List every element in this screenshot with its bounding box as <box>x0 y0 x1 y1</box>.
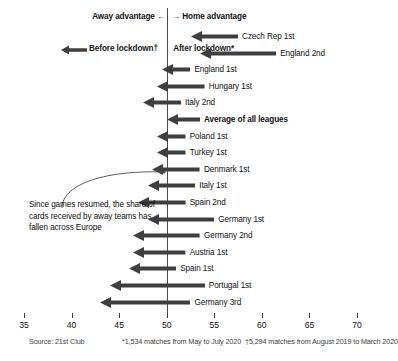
x-axis: 3540455055606570 <box>0 313 384 337</box>
row-arrow <box>143 94 181 111</box>
axis-tick-label: 55 <box>210 320 220 330</box>
chart-annotation: Since games resumed, the share of cards … <box>29 199 161 234</box>
row-arrow <box>200 45 276 62</box>
row-arrow <box>157 144 186 161</box>
chart-row: Poland 1st <box>0 128 384 145</box>
left-arrow-icon <box>162 61 191 78</box>
footnote-before-lockdown: †5,294 matches from August 2019 to March… <box>245 337 398 346</box>
row-label: Spain 2nd <box>190 198 226 207</box>
left-arrow-icon <box>167 111 200 128</box>
axis-tick-label: 35 <box>19 320 29 330</box>
row-arrow <box>191 28 239 45</box>
row-arrow <box>157 78 205 95</box>
row-label: Average of all leagues <box>204 115 288 124</box>
left-arrow-icon <box>143 94 181 111</box>
chart-row: Germany 3rd <box>0 294 384 311</box>
axis-tick <box>262 313 263 318</box>
footnote-after-lockdown: *1,534 matches from May to July 2020 <box>122 337 241 346</box>
chart-row: England 1st <box>0 61 384 78</box>
row-label: Italy 1st <box>199 181 226 190</box>
row-label: England 2nd <box>280 49 325 58</box>
row-arrow <box>110 277 205 294</box>
axis-tick-label: 60 <box>257 320 267 330</box>
row-label: Germany 2nd <box>204 231 253 240</box>
axis-tick-label: 45 <box>114 320 124 330</box>
axis-tick-label: 50 <box>162 320 172 330</box>
axis-tick-label: 65 <box>305 320 315 330</box>
axis-tick-label: 70 <box>352 320 362 330</box>
row-arrow <box>167 111 200 128</box>
row-arrow <box>133 244 185 261</box>
chart-row: Average of all leagues <box>0 111 384 128</box>
axis-tick <box>214 313 215 318</box>
chart-row: Italy 1st <box>0 177 384 194</box>
row-arrow <box>100 294 190 311</box>
row-label: Germany 1st <box>218 215 264 224</box>
left-arrow-icon <box>200 45 276 62</box>
axis-tick <box>119 313 120 318</box>
chart-row: Portugal 1st <box>0 277 384 294</box>
row-label: Germany 3rd <box>195 298 242 307</box>
left-arrow-icon <box>100 294 190 311</box>
left-arrow-icon <box>157 144 186 161</box>
left-arrow-icon <box>133 244 185 261</box>
row-arrow <box>162 61 191 78</box>
left-arrow-icon <box>191 28 239 45</box>
left-arrow-icon <box>110 277 205 294</box>
source-note: Source: 21st Club <box>29 337 84 346</box>
axis-tick <box>72 313 73 318</box>
row-arrow <box>129 260 177 277</box>
chart-row: Austria 1st <box>0 244 384 261</box>
row-label: Hungary 1st <box>209 82 252 91</box>
left-arrow-icon <box>157 78 205 95</box>
chart-row: Spain 1st <box>0 260 384 277</box>
chart-row: Denmark 1st <box>0 161 384 178</box>
chart-row: England 2nd <box>0 45 384 62</box>
row-label: Turkey 1st <box>190 148 227 157</box>
home-advantage-label: → Home advantage <box>172 12 246 21</box>
axis-tick <box>309 313 310 318</box>
row-label: Denmark 1st <box>204 165 249 174</box>
chart-row: Italy 2nd <box>0 94 384 111</box>
chart-footer: Source: 21st Club *1,534 matches from Ma… <box>0 337 384 351</box>
chart-row: Turkey 1st <box>0 144 384 161</box>
row-label: Portugal 1st <box>209 281 252 290</box>
row-label: Poland 1st <box>190 132 228 141</box>
row-label: Czech Rep 1st <box>242 32 294 41</box>
row-label: England 1st <box>195 65 237 74</box>
row-arrow <box>157 128 186 145</box>
axis-tick <box>167 313 168 318</box>
row-label: Austria 1st <box>190 248 228 257</box>
chart-row: Hungary 1st <box>0 78 384 95</box>
axis-tick-label: 40 <box>67 320 77 330</box>
chart-row: Czech Rep 1st <box>0 28 384 45</box>
left-arrow-icon <box>157 128 186 145</box>
away-advantage-label: Away advantage ← <box>92 12 165 21</box>
row-label: Italy 2nd <box>185 98 215 107</box>
axis-tick <box>357 313 358 318</box>
axis-tick <box>24 313 25 318</box>
row-label: Spain 1st <box>180 264 213 273</box>
left-arrow-icon <box>129 260 177 277</box>
